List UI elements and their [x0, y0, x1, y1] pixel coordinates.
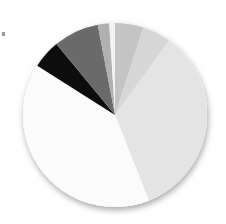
pie-slices	[23, 23, 207, 207]
pie-chart	[0, 0, 226, 224]
